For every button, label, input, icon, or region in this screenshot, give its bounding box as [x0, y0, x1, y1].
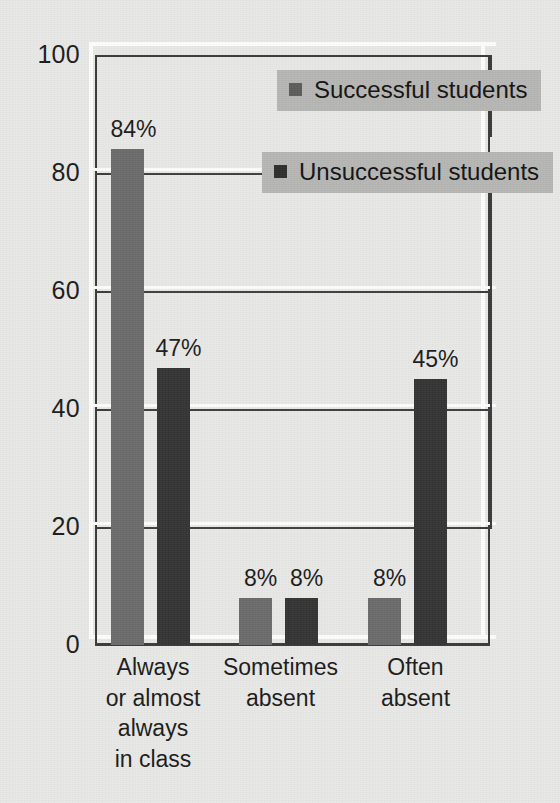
gridline-60 — [95, 291, 490, 293]
legend-item-successful-students[interactable]: Successful students — [277, 70, 541, 111]
x-category-label-always: Always or almost always in class — [83, 652, 223, 774]
bar-successful-sometimes[interactable] — [239, 598, 272, 645]
x-category-label-often: Often absent — [343, 652, 488, 713]
x-category-line: absent — [208, 683, 353, 714]
x-category-line: always — [83, 713, 223, 744]
x-category-line: Always — [83, 652, 223, 683]
legend-label-successful: Successful students — [314, 77, 527, 102]
bar-chart-figure: 100 80 60 40 20 0 — [0, 0, 560, 803]
y-tick-label-40: 40 — [2, 396, 80, 421]
y-tick-60 — [95, 291, 108, 293]
bar-label-unsuccessful-always: 47% — [131, 337, 226, 360]
bar-label-unsuccessful-often: 45% — [388, 348, 483, 371]
legend-item-unsuccessful-students[interactable]: Unsuccessful students — [262, 152, 553, 193]
y-tick-80 — [95, 173, 108, 175]
bar-successful-always[interactable] — [111, 149, 144, 645]
bar-unsuccessful-often[interactable] — [414, 379, 447, 645]
y-tick-label-80: 80 — [2, 160, 80, 185]
x-category-line: Often — [343, 652, 488, 683]
y-tick-label-0: 0 — [2, 632, 80, 657]
y-tick-40 — [95, 409, 108, 411]
legend-swatch-successful-icon — [289, 83, 302, 96]
gridline-highlight-60 — [89, 286, 496, 289]
bar-successful-often[interactable] — [368, 598, 401, 645]
bar-unsuccessful-sometimes[interactable] — [285, 598, 318, 645]
y-tick-20 — [95, 527, 108, 529]
legend-swatch-unsuccessful-icon — [274, 165, 287, 178]
axis-line-top — [95, 55, 490, 57]
bar-label-unsuccessful-sometimes: 8% — [259, 567, 354, 590]
y-tick-label-60: 60 — [2, 278, 80, 303]
x-category-line: absent — [343, 683, 488, 714]
legend-label-unsuccessful: Unsuccessful students — [299, 159, 539, 184]
bar-label-successful-often: 8% — [342, 567, 437, 590]
y-axis: 100 80 60 40 20 0 — [0, 55, 80, 645]
bar-unsuccessful-always[interactable] — [157, 368, 190, 645]
axis-line-left — [95, 55, 97, 645]
x-axis-category-labels: Always or almost always in class Sometim… — [95, 652, 490, 797]
plot-frame-highlight-top — [89, 42, 496, 46]
x-category-line: or almost — [83, 683, 223, 714]
y-tick-label-100: 100 — [2, 42, 80, 67]
x-category-label-sometimes: Sometimes absent — [208, 652, 353, 713]
x-category-line: in class — [83, 744, 223, 775]
y-tick-label-20: 20 — [2, 514, 80, 539]
right-outer-segment-lower — [490, 291, 492, 528]
bar-label-successful-always: 84% — [86, 118, 181, 141]
x-category-line: Sometimes — [208, 652, 353, 683]
right-outer-segment-mid — [490, 187, 492, 292]
